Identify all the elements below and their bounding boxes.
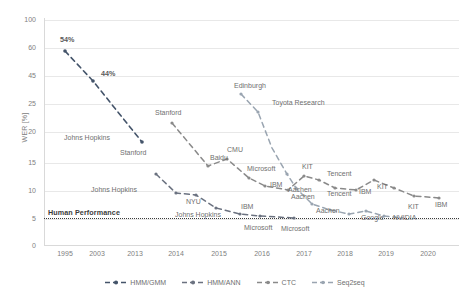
point-label-microsoft-ctc: Microsoft — [247, 165, 275, 173]
legend-label-hmm-gmm: HMM/GMM — [130, 279, 166, 286]
point-label-aachen-seq2: Aachen — [316, 207, 340, 215]
point-label-nvidia: NVIDIA — [393, 214, 416, 222]
y-tick-45: 45 — [10, 72, 36, 80]
chart-legend: HMM/GMM HMM/ANN CTC Seq2seq — [0, 272, 470, 292]
point-label-baidu: Baidu — [210, 154, 228, 162]
point-label-tencent-2: Tencent — [327, 190, 352, 198]
point-label-aachen-ctc: Aachen — [291, 193, 315, 201]
point-label-johns-hopkins-2: Johns Hopkins — [91, 186, 137, 194]
point-label-kit-ctc2: KIT — [377, 183, 388, 191]
point-label-aachen-seq1: Aachen — [288, 186, 312, 194]
gridline-60 — [44, 48, 459, 49]
series-hmm-gmm — [65, 51, 142, 142]
point-label-54pct: 54% — [60, 36, 74, 44]
y-tick-10: 10 — [10, 187, 36, 195]
legend-marker-hmm-gmm — [105, 279, 127, 286]
legend-item-hmm-gmm[interactable]: HMM/GMM — [105, 279, 166, 286]
point-label-kit-ctc1: KIT — [302, 163, 313, 171]
point-label-44pct: 44% — [101, 70, 115, 78]
y-tick-60: 60 — [10, 44, 36, 52]
wer-history-chart: WER [%] 100 60 45 25 20 15 10 5 0 Human … — [0, 0, 470, 298]
plot-area: Human Performance — [44, 18, 459, 246]
legend-marker-hmm-ann — [182, 279, 204, 286]
y-tick-0: 0 — [10, 242, 36, 250]
human-performance-label: Human Performance — [48, 208, 120, 217]
point-label-tencent-1: Tencent — [327, 170, 352, 178]
gridline-25 — [44, 104, 459, 105]
point-label-microsoft-seq: Microsoft — [281, 225, 309, 233]
gridline-100 — [44, 20, 459, 21]
x-axis-line — [44, 245, 459, 246]
y-tick-5: 5 — [10, 215, 36, 223]
point-label-ibm-ctc3: IBM — [435, 201, 447, 209]
gridline-20 — [44, 132, 459, 133]
legend-marker-ctc — [257, 279, 279, 286]
legend-item-seq2seq[interactable]: Seq2seq — [312, 279, 365, 286]
point-label-toyota-research: Toyota Research — [272, 99, 325, 107]
point-label-ibm-hmmann: IBM — [241, 203, 253, 211]
point-label-ibm-ctc2: IBM — [359, 188, 371, 196]
legend-label-seq2seq: Seq2seq — [337, 279, 365, 286]
series-seq2seq-markers — [239, 92, 403, 219]
point-label-edinburgh: Edinburgh — [234, 82, 266, 90]
y-tick-20: 20 — [10, 128, 36, 136]
y-tick-100: 100 — [10, 16, 36, 24]
y-tick-15: 15 — [10, 159, 36, 167]
gridline-15 — [44, 163, 459, 164]
y-tick-25: 25 — [10, 100, 36, 108]
point-label-microsoft-hmmann: Microsoft — [244, 224, 272, 232]
point-label-cmu: CMU — [227, 146, 243, 154]
y-axis-line — [44, 18, 45, 246]
point-label-johns-hopkins-3: Johns Hopkins — [175, 211, 221, 219]
point-label-stanford-ctc: Stanford — [155, 109, 181, 117]
series-hmm-gmm-markers — [63, 49, 144, 144]
point-label-google: Google — [361, 214, 384, 222]
x-tick-2020: 2020 — [403, 250, 453, 257]
point-label-stanford-hmmann: Stanford — [120, 149, 146, 157]
point-label-ibm-ctc1: IBM — [270, 181, 282, 189]
legend-label-ctc: CTC — [282, 279, 296, 286]
point-label-nyu: NYU — [186, 198, 201, 206]
series-seq2seq — [241, 94, 402, 218]
point-label-kit-ctc3: KIT — [408, 203, 419, 211]
legend-item-ctc[interactable]: CTC — [257, 279, 296, 286]
point-label-johns-hopkins-1: Johns Hopkins — [64, 134, 110, 142]
legend-label-hmm-ann: HMM/ANN — [207, 279, 240, 286]
legend-marker-seq2seq — [312, 279, 334, 286]
legend-item-hmm-ann[interactable]: HMM/ANN — [182, 279, 240, 286]
